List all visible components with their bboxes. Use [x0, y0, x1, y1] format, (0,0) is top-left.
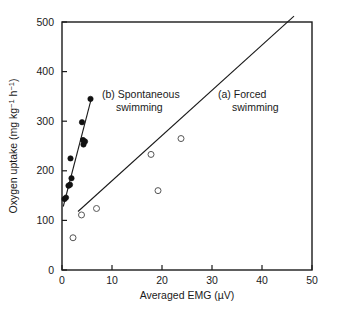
y-axis-tick-labels-group: 0100200300400500: [36, 16, 54, 276]
y-tick-label-100: 100: [36, 214, 54, 226]
plot-annotations-group: (b) Spontaneousswimming(a) Forcedswimmin…: [102, 88, 279, 113]
data-point-s1-4: [69, 176, 74, 181]
data-point-s0-1: [79, 212, 85, 218]
y-tick-label-300: 300: [36, 115, 54, 127]
plot-frame: [62, 22, 312, 270]
figure-container: 0100200300400500 01020304050 Averaged EM…: [0, 0, 337, 312]
data-point-s1-9: [79, 119, 84, 124]
x-tick-label-40: 40: [256, 274, 268, 286]
regression-line-series-0: [78, 16, 294, 211]
x-tick-label-20: 20: [156, 274, 168, 286]
data-point-s0-3: [148, 151, 154, 157]
data-point-s0-4: [155, 188, 161, 194]
annot-spontaneous: (b) Spontaneousswimming: [102, 88, 180, 113]
data-point-s0-5: [178, 136, 184, 142]
regression-line-series-1: [63, 98, 91, 207]
x-axis-title: Averaged EMG (µV): [140, 289, 235, 301]
x-tick-label-10: 10: [106, 274, 118, 286]
y-tick-label-500: 500: [36, 16, 54, 28]
x-tick-label-0: 0: [59, 274, 65, 286]
y-tick-label-0: 0: [48, 264, 54, 276]
x-axis-ticks-group: [62, 265, 312, 270]
data-point-s1-10: [88, 96, 93, 101]
data-point-s1-3: [67, 182, 72, 187]
scatter-plot: 0100200300400500 01020304050 Averaged EM…: [0, 0, 337, 312]
y-tick-label-200: 200: [36, 164, 54, 176]
y-tick-label-400: 400: [36, 65, 54, 77]
x-tick-label-30: 30: [206, 274, 218, 286]
data-point-s1-5: [68, 156, 73, 161]
x-tick-label-50: 50: [306, 274, 318, 286]
regression-lines-group: [63, 16, 294, 211]
data-points-group: [62, 96, 184, 241]
data-point-s0-0: [70, 235, 76, 241]
x-axis-tick-labels-group: 01020304050: [59, 274, 318, 286]
annot-forced: (a) Forcedswimming: [218, 88, 279, 113]
data-point-s1-8: [80, 137, 85, 142]
data-point-s0-2: [94, 205, 100, 211]
y-axis-title: Oxygen uptake (mg kg−1 h−1): [7, 78, 20, 213]
data-point-s1-1: [63, 195, 68, 200]
y-axis-ticks-group: [62, 22, 67, 270]
